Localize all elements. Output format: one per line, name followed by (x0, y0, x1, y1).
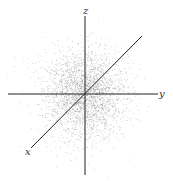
z-axis-label: z (82, 5, 89, 16)
y-axis-label: y (158, 88, 165, 99)
x-axis-label: x (25, 146, 31, 157)
diagram-canvas: z y x (0, 0, 173, 181)
axes-diagram: z y x (0, 0, 173, 181)
